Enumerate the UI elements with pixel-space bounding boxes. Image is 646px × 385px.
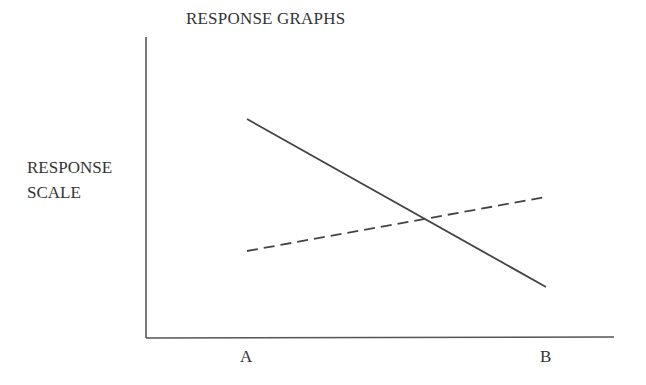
- plot-area: [0, 0, 646, 385]
- series-solid-line: [247, 119, 546, 287]
- x-axis: [146, 337, 614, 338]
- series-dashed-line: [247, 197, 546, 251]
